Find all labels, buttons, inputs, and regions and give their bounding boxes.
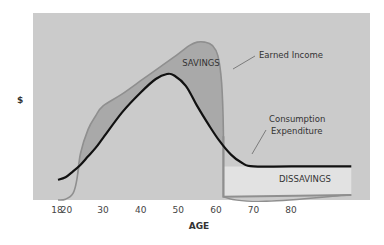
x-tick-label: 50 — [173, 205, 185, 215]
life-cycle-chart: $ 1820304050607080 AGE SAVINGS Earned In… — [0, 0, 384, 245]
earned-income-label: Earned Income — [259, 50, 323, 60]
x-tick-label: 20 — [61, 205, 73, 215]
dissavings-label: DISSAVINGS — [279, 174, 331, 184]
consumption-label-line1: Consumption — [269, 114, 325, 124]
y-axis-label: $ — [17, 95, 23, 105]
x-axis-label: AGE — [189, 221, 210, 231]
savings-label: SAVINGS — [182, 58, 220, 68]
x-tick-label: 60 — [210, 205, 222, 215]
consumption-label-line2: Expenditure — [271, 126, 322, 136]
x-tick-label: 30 — [97, 205, 109, 215]
x-tick-label: 80 — [285, 205, 297, 215]
x-tick-label: 70 — [248, 205, 260, 215]
x-tick-label: 40 — [135, 205, 147, 215]
